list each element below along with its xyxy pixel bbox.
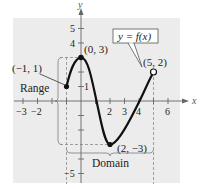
closed-point-minimum xyxy=(107,142,112,147)
open-point-right-endpoint xyxy=(151,69,157,75)
function-graph-figure: x y −3 −2 2 3 4 6 5 4 1 −5 (−1, 1) (0, 3… xyxy=(0,0,208,189)
point-label-minimum: (2, −3) xyxy=(117,142,147,155)
x-axis-label: x xyxy=(191,95,197,106)
y-axis-label: y xyxy=(77,0,83,10)
x-axis-arrow-icon xyxy=(182,99,189,104)
x-tick-label: 6 xyxy=(165,106,170,117)
x-tick-label: 2 xyxy=(107,106,112,117)
point-label-right-endpoint: (5, 2) xyxy=(143,56,167,69)
y-tick-label: −5 xyxy=(64,168,75,179)
point-label-left-endpoint: (−1, 1) xyxy=(12,62,42,75)
x-tick-label: 3 xyxy=(122,106,127,117)
domain-label: Domain xyxy=(92,157,129,169)
closed-point-maximum xyxy=(78,55,84,61)
point-label-maximum: (0, 3) xyxy=(84,43,108,56)
x-tick-label: −3 xyxy=(16,106,27,117)
svg-text:y = f(x): y = f(x) xyxy=(117,30,151,43)
x-tick-label: −2 xyxy=(31,106,42,117)
y-tick-label: 5 xyxy=(70,23,75,34)
y-tick-label: 4 xyxy=(70,38,75,49)
range-label: Range xyxy=(20,82,49,95)
y-tick-label: 1 xyxy=(84,81,89,92)
